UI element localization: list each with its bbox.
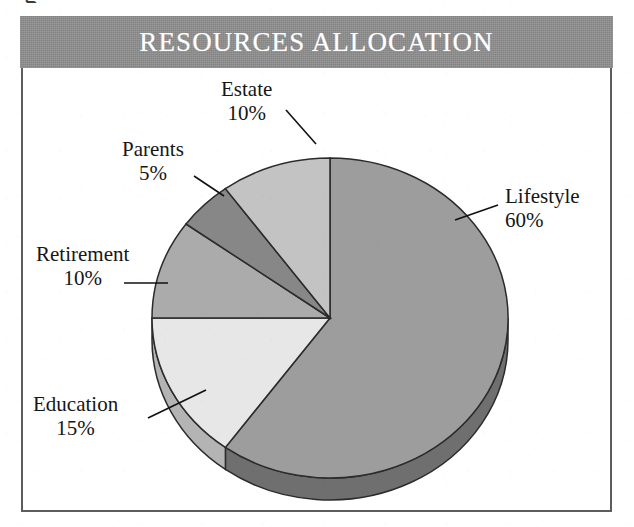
- pie-label-estate: Estate 10%: [221, 78, 272, 125]
- leader-line-estate: [286, 110, 316, 144]
- pie-label-retirement: Retirement 10%: [36, 243, 129, 290]
- pie-label-parents: Parents 5%: [122, 138, 184, 185]
- pie-slices-group: [152, 158, 508, 478]
- chart-page: g RESOURCES ALLOCATION: [0, 0, 634, 527]
- pie-label-lifestyle: Lifestyle 60%: [505, 185, 580, 232]
- pie-label-retirement-percent: 10%: [36, 267, 129, 291]
- pie-label-education-percent: 15%: [33, 417, 118, 441]
- pie-label-retirement-name: Retirement: [36, 243, 129, 267]
- pie-label-estate-percent: 10%: [221, 102, 272, 126]
- pie-label-lifestyle-name: Lifestyle: [505, 185, 580, 209]
- pie-label-education-name: Education: [33, 393, 118, 417]
- pie-label-education: Education 15%: [33, 393, 118, 440]
- pie-label-parents-name: Parents: [122, 138, 184, 162]
- leader-line-parents: [194, 176, 224, 196]
- pie-label-parents-percent: 5%: [122, 162, 184, 186]
- pie-label-estate-name: Estate: [221, 78, 272, 102]
- pie-label-lifestyle-percent: 60%: [505, 209, 580, 233]
